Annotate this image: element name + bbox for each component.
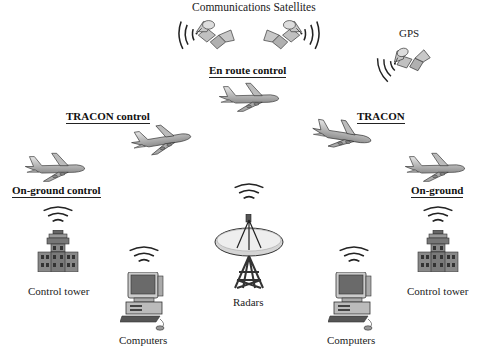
gps-satellite-icon [371, 36, 437, 91]
airplane-icon [22, 150, 88, 183]
control-tower-icon [416, 230, 460, 272]
airplane-icon [402, 150, 468, 183]
radar-dish-icon [213, 214, 285, 294]
computer-icon [120, 272, 170, 332]
control-tower-label: Control tower [28, 285, 89, 297]
signal-waves-icon [336, 245, 372, 267]
on-ground-control-heading: On-ground control [12, 184, 101, 198]
airplane-icon [216, 80, 282, 113]
tracon-control-heading: TRACON control [66, 110, 150, 124]
signal-waves-icon [231, 182, 267, 204]
computers-label: Computers [119, 334, 167, 346]
communications-satellites-label: Communications Satellites [192, 1, 316, 13]
satellite-icon [262, 16, 322, 56]
control-tower-icon [36, 230, 80, 272]
en-route-control-heading: En route control [209, 64, 286, 78]
signal-waves-icon [420, 205, 456, 227]
on-ground-heading: On-ground [411, 184, 463, 198]
computers-label: Computers [327, 334, 375, 346]
radars-label: Radars [233, 296, 264, 308]
satellite-icon [176, 16, 236, 56]
computer-icon [328, 272, 378, 332]
signal-waves-icon [40, 205, 76, 227]
control-tower-label: Control tower [407, 285, 468, 297]
signal-waves-icon [126, 245, 162, 267]
